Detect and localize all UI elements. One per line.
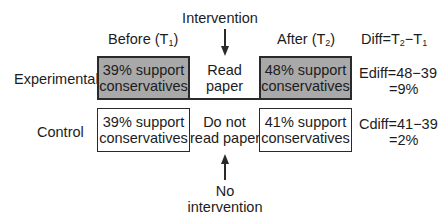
- control-before-box: 39% support conservatives: [97, 108, 190, 152]
- no-intervention-arrow-shaft: [224, 160, 226, 180]
- experimental-after-line1: 48% support: [261, 62, 350, 78]
- control-before-line2: conservatives: [99, 130, 188, 146]
- experimental-diff-line1: Ediff=48−39: [359, 65, 437, 81]
- before-header: Before (T1): [108, 31, 178, 47]
- intervention-label: Intervention: [178, 10, 262, 26]
- control-diff-line2: =2%: [359, 132, 438, 148]
- control-before-line1: 39% support: [99, 114, 188, 130]
- experimental-row-label: Experimental: [14, 71, 99, 87]
- experimental-before-line2: conservatives: [99, 78, 188, 94]
- intervention-arrow-icon: [221, 46, 229, 56]
- experimental-diff-line2: =9%: [359, 81, 437, 97]
- diff-header: Diff=T2−T1: [361, 31, 427, 47]
- control-treatment: Do not read paper: [190, 114, 259, 146]
- control-after-line2: conservatives: [261, 130, 350, 146]
- control-diff-line1: Cdiff=41−39: [359, 116, 438, 132]
- experimental-before-box: 39% support conservatives: [97, 56, 190, 100]
- intervention-text: Intervention: [182, 10, 258, 26]
- no-intervention-line1: No: [178, 183, 272, 199]
- experimental-diff: Ediff=48−39 =9%: [359, 65, 437, 97]
- control-treatment-line1: Do not: [190, 114, 259, 130]
- after-header: After (T2): [277, 31, 335, 47]
- control-after-line1: 41% support: [261, 114, 350, 130]
- experimental-after-line2: conservatives: [261, 78, 350, 94]
- experimental-treatment-line2: paper: [190, 78, 259, 94]
- experimental-treatment: Read paper: [190, 62, 259, 94]
- control-diff: Cdiff=41−39 =2%: [359, 116, 438, 148]
- control-after-box: 41% support conservatives: [259, 108, 352, 152]
- no-intervention-line2: intervention: [178, 199, 272, 215]
- experimental-connector-line: [189, 98, 260, 100]
- experimental-treatment-line1: Read: [190, 62, 259, 78]
- control-treatment-line2: read paper: [190, 130, 259, 146]
- control-row-label: Control: [37, 124, 84, 140]
- no-intervention-label: No intervention: [178, 183, 272, 215]
- experimental-after-box: 48% support conservatives: [259, 56, 352, 100]
- experimental-before-line1: 39% support: [99, 62, 188, 78]
